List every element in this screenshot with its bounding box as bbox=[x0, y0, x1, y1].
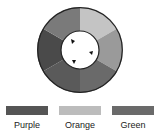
color-wheel bbox=[37, 7, 123, 93]
legend-label-orange: Orange bbox=[55, 120, 105, 130]
wheel-center bbox=[61, 31, 99, 69]
legend-swatch-purple bbox=[6, 106, 48, 115]
legend-label-purple: Purple bbox=[2, 120, 52, 130]
legend: Purple Orange Green bbox=[0, 106, 163, 136]
legend-swatch-green bbox=[112, 106, 154, 115]
legend-swatch-orange bbox=[59, 106, 101, 115]
legend-label-green: Green bbox=[108, 120, 158, 130]
